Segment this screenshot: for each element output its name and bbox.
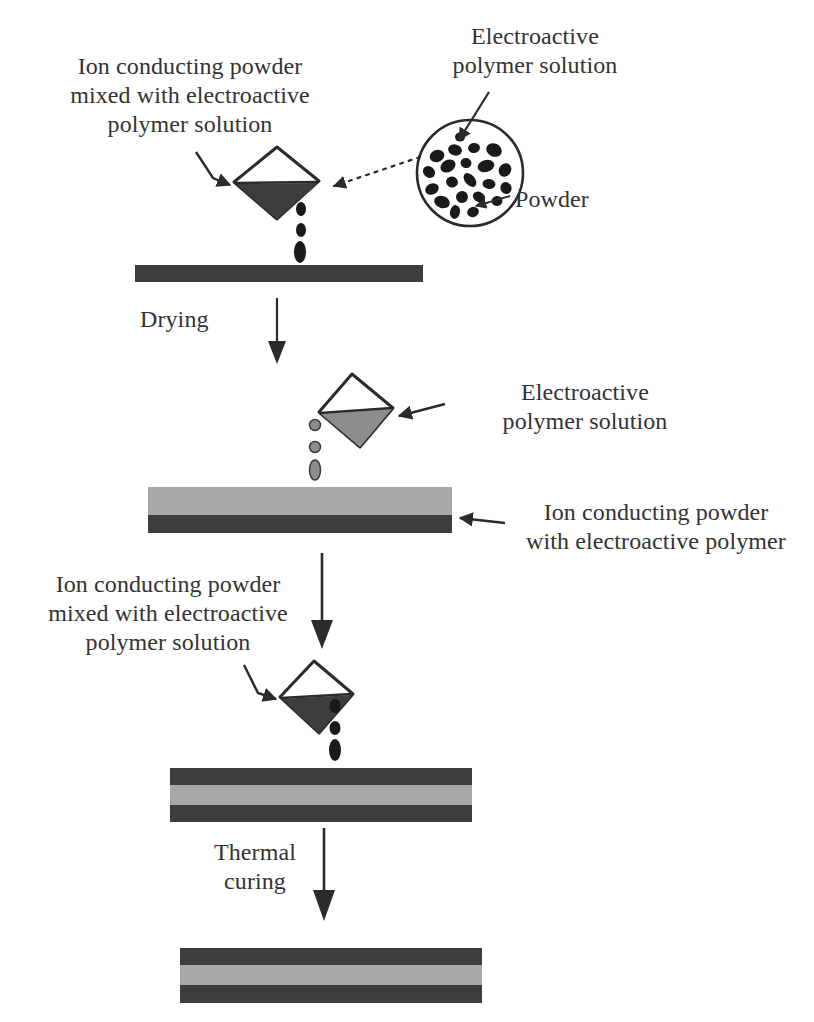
- substrate-bar-cured-trilayer: [180, 948, 482, 1003]
- powder-particle: [466, 205, 481, 219]
- pointer-stage2-label-to-beaker: [399, 404, 445, 416]
- droplet: [329, 739, 341, 761]
- powder-particle: [428, 148, 446, 164]
- beaker-outline-stage2: [319, 374, 393, 447]
- powder-particle: [420, 164, 437, 181]
- droplets-stage2: [310, 420, 321, 481]
- label-thermal-curing: Thermal curing: [185, 838, 325, 896]
- droplet: [310, 420, 321, 431]
- powder-particle: [455, 190, 469, 204]
- bar-layer-dark: [148, 515, 452, 533]
- bar-layer-light: [148, 487, 452, 515]
- powder-particle: [447, 143, 463, 157]
- powder-particle: [438, 157, 458, 175]
- powder-particle: [449, 204, 462, 220]
- label-drying: Drying: [140, 305, 280, 334]
- powder-particle: [484, 141, 504, 160]
- powder-particle: [482, 178, 496, 189]
- powder-magnifier-circle: [417, 120, 523, 226]
- powder-particle: [460, 157, 473, 169]
- label-stage3-powder-mixture: Ion conducting powder mixed with electro…: [18, 570, 318, 656]
- pointer-stage3-label-to-beaker: [244, 665, 276, 699]
- beaker-liquid-surface-stage1: [235, 182, 318, 183]
- powder-particle: [433, 194, 452, 210]
- droplet: [330, 721, 341, 735]
- label-powder: Powder: [515, 185, 675, 214]
- powder-particle: [467, 142, 481, 154]
- beaker-liquid-dark-stage1: [236, 183, 318, 219]
- beaker-liquid-surface-stage3: [281, 694, 352, 698]
- dotted-arrow-circle-to-beaker: [334, 157, 420, 186]
- bar-layer-dark-bottom: [180, 985, 482, 1003]
- beaker-stage3: [280, 661, 353, 733]
- bar-layer-dark-top: [170, 768, 472, 785]
- powder-particle: [423, 181, 440, 197]
- beaker-liquid-surface-stage2: [320, 408, 392, 413]
- powder-particle: [476, 158, 496, 174]
- pointer-solution-to-circle: [459, 92, 489, 140]
- droplets-stage1: [294, 202, 306, 263]
- powder-particle: [491, 195, 503, 206]
- droplets-stage3: [329, 699, 341, 761]
- powder-particle: [471, 189, 487, 204]
- pointer-powder-label-to-circle: [476, 196, 510, 206]
- pointer-bilayer-label-to-bar: [460, 518, 505, 523]
- substrate-bar-single-layer: [135, 265, 423, 282]
- beaker-liquid-dark-stage3: [282, 695, 352, 733]
- substrate-bar-trilayer: [170, 768, 472, 822]
- powder-particle: [461, 171, 479, 190]
- droplet: [310, 460, 321, 480]
- label-bilayer-description: Ion conducting powder with electroactive…: [500, 498, 812, 556]
- bar-layer-light-middle: [180, 965, 482, 985]
- label-top-left-powder-mixture: Ion conducting powder mixed with electro…: [40, 52, 340, 138]
- pointer-top-left-to-beaker: [196, 152, 230, 185]
- substrate-bar-bilayer: [148, 487, 452, 533]
- droplet: [294, 241, 306, 263]
- droplet: [296, 202, 306, 216]
- powder-particle: [496, 161, 514, 179]
- droplet: [310, 442, 321, 453]
- bar-layer-light-middle: [170, 785, 472, 805]
- figure-canvas: Ion conducting powder mixed with electro…: [0, 0, 814, 1022]
- label-top-right-electroactive-solution: Electroactive polymer solution: [400, 22, 670, 80]
- beaker-outline-stage1: [234, 147, 319, 219]
- beaker-liquid-mid-stage2: [321, 409, 392, 447]
- powder-particle: [444, 175, 459, 189]
- bar-layer-dark-bottom: [170, 805, 472, 822]
- bar-layer-dark-top: [180, 948, 482, 965]
- bar-layer-dark: [135, 265, 423, 282]
- powder-particles: [420, 133, 513, 220]
- beaker-stage2: [319, 374, 393, 447]
- powder-particle: [455, 133, 465, 142]
- powder-particle: [499, 180, 513, 195]
- label-stage2-electroactive-solution: Electroactive polymer solution: [440, 378, 730, 436]
- powder-circle-outline: [417, 120, 523, 226]
- beaker-stage1: [234, 147, 319, 219]
- droplet: [296, 223, 306, 237]
- droplet: [330, 699, 341, 713]
- beaker-outline-stage3: [280, 661, 353, 733]
